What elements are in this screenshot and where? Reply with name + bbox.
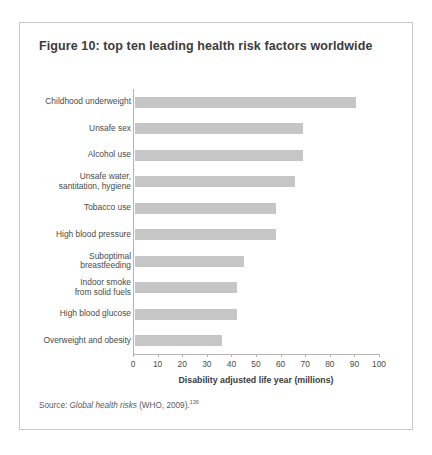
bar xyxy=(135,309,237,320)
tick-label: 80 xyxy=(325,359,334,369)
bar-row xyxy=(135,142,378,169)
bar-row xyxy=(135,89,378,116)
bar xyxy=(135,150,303,161)
source-prefix: Source: xyxy=(39,401,70,410)
page-running-text xyxy=(30,0,402,4)
x-axis-tick-labels: 0102030405060708090100 xyxy=(133,359,379,371)
tick-label: 20 xyxy=(178,359,187,369)
bar-row xyxy=(135,328,378,355)
bar xyxy=(135,256,244,267)
category-label: Overweight and obesity xyxy=(28,328,133,355)
bar xyxy=(135,176,295,187)
tick-mark xyxy=(182,354,183,357)
figure-title: Figure 10: top ten leading health risk f… xyxy=(39,39,372,53)
source-reference-number: 136 xyxy=(190,399,199,405)
tick-label: 90 xyxy=(350,359,359,369)
tick-label: 0 xyxy=(131,359,136,369)
source-suffix: (WHO, 2009). xyxy=(137,401,190,410)
source-title: Global health risks xyxy=(70,401,137,410)
bar xyxy=(135,97,356,108)
tick-mark xyxy=(231,354,232,357)
category-label: Suboptimal breastfeeding xyxy=(28,248,133,275)
bar xyxy=(135,229,276,240)
bar-row xyxy=(135,116,378,143)
category-label: Tobacco use xyxy=(28,195,133,222)
tick-label: 30 xyxy=(202,359,211,369)
tick-mark xyxy=(207,354,208,357)
category-label: Indoor smoke from solid fuels xyxy=(28,275,133,302)
chart-plot-area: Childhood underweightUnsafe sexAlcohol u… xyxy=(20,81,414,381)
tick-label: 50 xyxy=(251,359,260,369)
bar xyxy=(135,282,237,293)
x-axis-tick-marks xyxy=(133,354,379,358)
bar xyxy=(135,123,303,134)
bar-row xyxy=(135,195,378,222)
tick-label: 70 xyxy=(301,359,310,369)
bar-row xyxy=(135,222,378,249)
category-label: Childhood underweight xyxy=(28,89,133,116)
category-label: Unsafe sex xyxy=(28,116,133,143)
tick-label: 10 xyxy=(153,359,162,369)
figure-container: Figure 10: top ten leading health risk f… xyxy=(19,22,413,430)
bar-row xyxy=(135,301,378,328)
tick-label: 40 xyxy=(227,359,236,369)
tick-label: 60 xyxy=(276,359,285,369)
category-label: Alcohol use xyxy=(28,142,133,169)
x-axis-title: Disability adjusted life year (millions) xyxy=(133,375,379,385)
bar-row xyxy=(135,275,378,302)
source-note: Source: Global health risks (WHO, 2009).… xyxy=(39,399,199,410)
category-label: High blood glucose xyxy=(28,301,133,328)
tick-mark xyxy=(330,354,331,357)
tick-mark xyxy=(305,354,306,357)
tick-mark xyxy=(158,354,159,357)
bars-region xyxy=(133,89,378,354)
bar xyxy=(135,203,276,214)
bars-stack xyxy=(135,89,378,354)
tick-label: 100 xyxy=(372,359,386,369)
bar xyxy=(135,335,222,346)
bar-row xyxy=(135,248,378,275)
y-axis-category-labels: Childhood underweightUnsafe sexAlcohol u… xyxy=(28,89,133,354)
tick-mark xyxy=(281,354,282,357)
category-label: High blood pressure xyxy=(28,222,133,249)
bar-row xyxy=(135,169,378,196)
tick-mark xyxy=(379,354,380,357)
tick-mark xyxy=(133,354,134,357)
category-label: Unsafe water, santitation, hygiene xyxy=(28,169,133,196)
tick-mark xyxy=(256,354,257,357)
tick-mark xyxy=(354,354,355,357)
